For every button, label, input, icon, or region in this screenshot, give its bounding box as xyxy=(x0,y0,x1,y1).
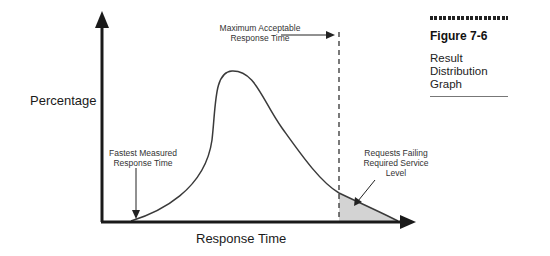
caption-line-1: Result xyxy=(430,52,508,65)
distribution-curve xyxy=(131,71,398,221)
requests-failing-line-3: Level xyxy=(355,168,437,178)
y-axis-arrow-icon xyxy=(95,11,109,28)
requests-failing-line-2: Required Service xyxy=(355,158,437,168)
figure-sidebar: Figure 7-6 Result Distribution Graph xyxy=(430,16,508,97)
figure-caption: Result Distribution Graph xyxy=(430,52,508,91)
y-axis-label: Percentage xyxy=(30,93,97,108)
fastest-measured-annotation: Fastest Measured Response Time xyxy=(98,148,188,168)
x-axis-arrow-icon xyxy=(400,215,416,229)
requests-failing-annotation: Requests Failing Required Service Level xyxy=(355,148,437,178)
caption-line-2: Distribution xyxy=(430,65,508,78)
requests-failing-pointer xyxy=(358,180,375,201)
figure-number: Figure 7-6 xyxy=(430,29,508,43)
caption-line-3: Graph xyxy=(430,78,508,91)
max-acceptable-annotation: Maximum Acceptable Response Time xyxy=(208,23,312,43)
max-acceptable-line-2: Response Time xyxy=(208,33,312,43)
caption-underline xyxy=(430,96,508,97)
fastest-measured-line-2: Response Time xyxy=(98,158,188,168)
dotted-rule xyxy=(430,16,508,20)
max-acceptable-line-1: Maximum Acceptable xyxy=(208,23,312,33)
x-axis-label: Response Time xyxy=(196,231,286,246)
fastest-measured-line-1: Fastest Measured xyxy=(98,148,188,158)
requests-failing-line-1: Requests Failing xyxy=(355,148,437,158)
max-acceptable-arrowhead-icon xyxy=(326,31,335,39)
